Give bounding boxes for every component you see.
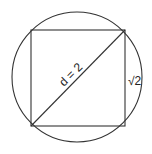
inscribed-square-diagram: d = 2 √2 <box>0 0 152 154</box>
diagonal-line <box>31 30 125 126</box>
side-label: √2 <box>128 74 142 88</box>
